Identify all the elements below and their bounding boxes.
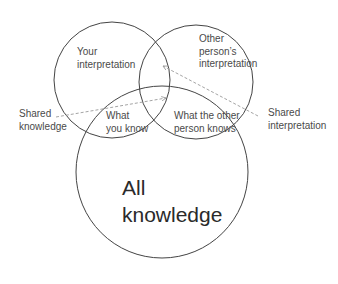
- label-what-you-know: What you know: [106, 110, 148, 135]
- label-what-other-knows: What the other person knows: [174, 110, 240, 135]
- label-line: interpretation: [77, 59, 135, 72]
- label-line: knowledge: [122, 201, 222, 228]
- label-line: you know: [106, 123, 148, 136]
- arrow-shared-interpretation: [163, 66, 258, 116]
- label-line: Shared: [268, 107, 326, 120]
- label-line: What: [106, 110, 148, 123]
- venn-diagram: [0, 0, 338, 284]
- label-all-knowledge: All knowledge: [122, 174, 222, 228]
- label-line: interpretation: [199, 58, 257, 71]
- label-line: Your: [77, 46, 135, 59]
- label-other-interpretation: Other person’s interpretation: [199, 33, 257, 71]
- label-line: What the other: [174, 110, 240, 123]
- label-line: Other: [199, 33, 257, 46]
- label-your-interpretation: Your interpretation: [77, 46, 135, 71]
- label-line: knowledge: [19, 121, 67, 134]
- label-shared-interpretation: Shared interpretation: [268, 107, 326, 132]
- label-line: All: [122, 174, 222, 201]
- label-shared-knowledge: Shared knowledge: [19, 108, 67, 133]
- label-line: interpretation: [268, 120, 326, 133]
- label-line: person’s: [199, 46, 257, 59]
- label-line: Shared: [19, 108, 67, 121]
- label-line: person knows: [174, 123, 240, 136]
